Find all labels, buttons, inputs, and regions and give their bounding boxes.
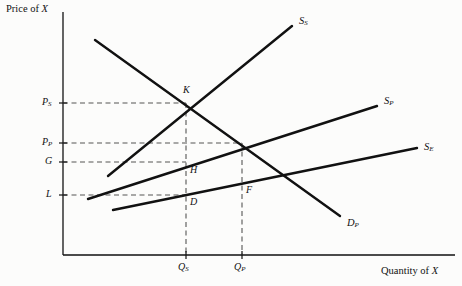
- y-tick-label-ps: PS: [42, 97, 52, 108]
- y-axis-title-variable: X: [42, 3, 48, 14]
- x-tick-label-qs: QS: [178, 262, 189, 273]
- curve-label-se: SE: [424, 142, 434, 153]
- y-tick-label-pp: PP: [42, 137, 52, 148]
- y-axis-title: Price of X: [6, 4, 48, 15]
- x-axis-title: Quantity of X: [381, 266, 438, 277]
- axes: [63, 12, 455, 255]
- supply-demand-diagram: Price of X Quantity of X PS PP G L QS QP…: [0, 0, 462, 286]
- diagram-canvas: [0, 0, 462, 286]
- point-label-h: H: [190, 165, 197, 175]
- point-label-k: K: [183, 85, 190, 95]
- x-tick-label-qp: QP: [234, 262, 246, 273]
- point-label-d: D: [190, 197, 197, 207]
- curve-label-ss: SS: [299, 16, 308, 27]
- curve-label-sp: SP: [384, 96, 394, 107]
- curve-lines: [88, 26, 417, 216]
- curve-s-s: [108, 26, 292, 176]
- x-axis-title-variable: X: [432, 265, 438, 276]
- y-tick-label-g: G: [45, 156, 52, 166]
- curve-s-e: [113, 148, 417, 210]
- curve-label-dp: DP: [347, 218, 359, 229]
- point-label-f: F: [246, 185, 252, 195]
- y-tick-label-l: L: [46, 189, 52, 199]
